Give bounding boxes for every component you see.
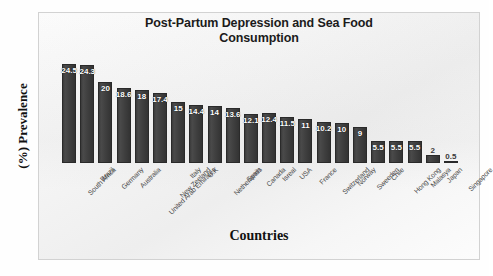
- bar-rect: 14.4: [189, 105, 203, 163]
- bar-spain: 13.6: [226, 108, 240, 163]
- bar-value-label: 24.5: [61, 66, 77, 75]
- bar-norway: 10: [335, 123, 349, 163]
- bar-value-label: 10.2: [316, 124, 332, 133]
- bar-value-label: 14.4: [189, 107, 205, 116]
- bar-rect: 15: [171, 102, 185, 163]
- bar-value-label: 10: [337, 125, 346, 134]
- bar-brazil: 24.3: [80, 65, 94, 163]
- bar-usa: 11.5: [280, 117, 294, 163]
- bar-switzerland: 10.2: [317, 122, 331, 163]
- bar-rect: 5.5: [371, 141, 385, 163]
- x-axis-label: Countries: [38, 228, 480, 244]
- bar-value-label: 17.4: [152, 95, 168, 104]
- bar-value-label: 0.5: [445, 152, 456, 161]
- bar-rect: 24.3: [80, 65, 94, 163]
- bar-value-label: 12.1: [243, 116, 259, 125]
- bar-value-label: 2: [430, 146, 434, 155]
- bar-u-k: 14.4: [189, 105, 203, 163]
- bar-rect: 10.2: [317, 122, 331, 163]
- bar-rect: 0.5: [444, 161, 458, 163]
- bar-value-label: 5.5: [409, 143, 420, 152]
- chart-title-line-1: Post-Partum Depression and Sea Food: [38, 16, 480, 31]
- bar-malasya: 5.5: [408, 141, 422, 163]
- bar-rect: 20: [98, 82, 112, 163]
- bar-value-label: 5.5: [391, 143, 402, 152]
- bar-italy: 15: [171, 102, 185, 163]
- bar-south-africa: 24.5: [62, 64, 76, 163]
- bar-netherlands: 14: [208, 106, 222, 163]
- bar-chile: 5.5: [371, 141, 385, 163]
- bar-rect: 5.5: [389, 141, 403, 163]
- bar-new-zeeland: 17.4: [153, 93, 167, 163]
- bar-rect: 18.6: [117, 88, 131, 163]
- bar-rect: 13.6: [226, 108, 240, 163]
- bar-rect: 10: [335, 123, 349, 163]
- bar-value-label: 13.6: [225, 110, 241, 119]
- bar-germany: 20: [98, 82, 112, 163]
- bar-rect: 12.4: [262, 113, 276, 163]
- bar-value-label: 9: [358, 129, 362, 138]
- bar-rect: 12.1: [244, 114, 258, 163]
- bar-japan: 2: [426, 155, 440, 163]
- bar-rect: 14: [208, 106, 222, 163]
- bar-rect: 2: [426, 155, 440, 163]
- bar-rect: 9: [353, 127, 367, 163]
- bar-hong-kong: 5.5: [389, 141, 403, 163]
- bar-value-label: 11.5: [280, 119, 295, 128]
- bar-rect: 18: [135, 90, 149, 163]
- bar-sweeden: 9: [353, 127, 367, 163]
- bar-rect: 17.4: [153, 93, 167, 163]
- bar-value-label: 24.3: [79, 67, 95, 76]
- bar-france: 11: [298, 119, 312, 163]
- bar-rect: 5.5: [408, 141, 422, 163]
- bar-isreal: 12.4: [262, 113, 276, 163]
- bar-rect: 11: [298, 119, 312, 163]
- bar-value-label: 18.6: [116, 90, 132, 99]
- chart-title: Post-Partum Depression and Sea Food Cons…: [38, 16, 480, 46]
- bar-value-label: 18: [137, 92, 146, 101]
- bar-canada: 12.1: [244, 114, 258, 163]
- chart-title-line-2: Consumption: [38, 31, 480, 46]
- plot-area: 24.524.32018.61817.41514.41413.612.112.4…: [60, 58, 460, 163]
- bar-value-label: 15: [174, 104, 183, 113]
- bar-value-label: 5.5: [373, 143, 384, 152]
- bar-united-arab-emirates: 18: [135, 90, 149, 163]
- bar-rect: 11.5: [280, 117, 294, 163]
- bar-singapore: 0.5: [444, 161, 458, 163]
- bar-value-label: 14: [210, 108, 219, 117]
- bar-australia: 18.6: [117, 88, 131, 163]
- bar-value-label: 20: [101, 84, 110, 93]
- y-axis-label: (%) Prevalence: [15, 61, 31, 191]
- bar-value-label: 11: [301, 121, 309, 130]
- bar-rect: 24.5: [62, 64, 76, 163]
- bar-value-label: 12.4: [261, 115, 277, 124]
